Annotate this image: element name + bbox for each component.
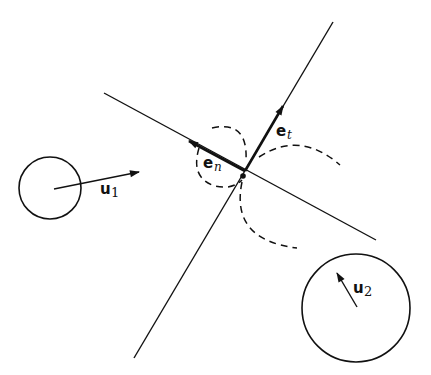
- label-e-t: e t: [276, 122, 292, 142]
- e-n-base: e: [203, 154, 213, 172]
- dashed-arc-right: [259, 145, 340, 165]
- particle-1: [19, 157, 81, 219]
- u1-sub: 1: [111, 185, 119, 200]
- contact-point: [240, 173, 246, 179]
- e-t-sub: t: [287, 128, 292, 142]
- tangent-line: [104, 93, 376, 240]
- collision-diagram: e n e t u 1 u 2: [0, 0, 431, 375]
- u1-base: u: [100, 180, 111, 198]
- particle-2: [302, 254, 410, 362]
- u1-vector: [54, 172, 139, 189]
- label-u1: u 1: [100, 180, 119, 200]
- u2-sub: 2: [364, 284, 372, 299]
- e-n-sub: n: [214, 160, 222, 174]
- e-t-base: e: [276, 122, 286, 140]
- u2-base: u: [353, 279, 364, 297]
- dashed-arc-lower: [240, 182, 297, 248]
- label-u2: u 2: [353, 279, 372, 299]
- normal-line: [134, 22, 333, 358]
- dashed-arcs: [197, 127, 340, 248]
